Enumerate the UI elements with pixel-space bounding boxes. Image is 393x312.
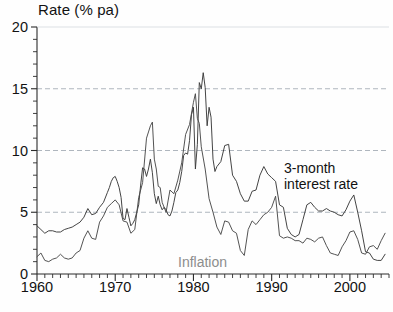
- rate-chart: Rate (% pa) 05101520 1960197019801990200…: [0, 0, 393, 312]
- y-tick-label-20: 20: [0, 19, 28, 35]
- y-tick-label-15: 15: [0, 81, 28, 97]
- inflation-annotation: Inflation: [178, 254, 227, 270]
- y-axis-title: Rate (% pa): [38, 1, 119, 18]
- x-tick-label-1970: 1970: [99, 279, 131, 295]
- tick-marks: [31, 27, 389, 281]
- y-tick-label-10: 10: [0, 143, 28, 159]
- y-tick-label-5: 5: [0, 204, 28, 220]
- x-tick-label-1960: 1960: [21, 279, 53, 295]
- interest-rate-annotation: 3-month interest rate: [284, 160, 358, 192]
- x-tick-label-1990: 1990: [256, 279, 288, 295]
- x-tick-label-1980: 1980: [177, 279, 209, 295]
- x-tick-label-2000: 2000: [334, 279, 366, 295]
